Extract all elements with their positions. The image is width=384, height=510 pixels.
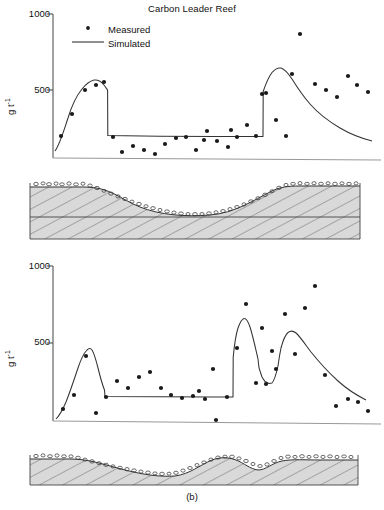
geology-strata-lower-top <box>30 217 360 239</box>
legend-dot-icon <box>86 26 90 30</box>
measured-points-bottom <box>61 284 370 422</box>
axes-bottom <box>47 266 381 424</box>
geology-strata-upper-top <box>30 183 360 219</box>
chart-top <box>0 0 384 175</box>
section-top <box>0 175 384 245</box>
legend-glyphs-top <box>72 26 104 42</box>
measured-points-top <box>59 32 370 156</box>
chart-bottom <box>0 256 384 436</box>
axes-top <box>47 14 381 160</box>
simulated-curve-top <box>55 68 372 151</box>
panel-caption: (b) <box>0 491 384 502</box>
figure-root: Carbon Leader Reef 1000 500 g t-1 Measur… <box>0 0 384 510</box>
